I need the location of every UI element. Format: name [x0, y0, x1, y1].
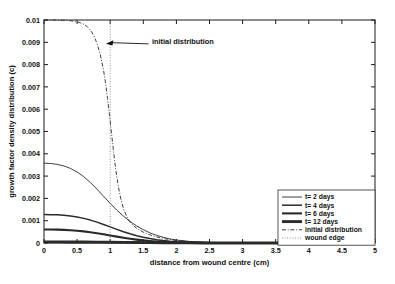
x-tick-label: 0 — [42, 246, 46, 255]
legend-box[interactable]: t= 2 dayst= 4 dayst= 6 dayst= 12 daysini… — [278, 190, 375, 245]
chart-canvas: 00.511.522.533.544.5500.0010.0020.0030.0… — [0, 0, 395, 284]
y-tick-label: 0.001 — [22, 216, 40, 225]
y-axis-title: growth factor density distribution (c) — [7, 65, 16, 198]
y-tick-label: 0.005 — [22, 127, 40, 136]
figure-container: 00.511.522.533.544.5500.0010.0020.0030.0… — [0, 0, 395, 284]
x-tick-label: 4 — [307, 246, 311, 255]
y-tick-label: 0.004 — [22, 149, 40, 158]
legend-label-t-4-days[interactable]: t= 4 days — [305, 202, 335, 210]
x-tick-label: 2 — [174, 246, 178, 255]
y-tick-label: 0.01 — [26, 16, 40, 25]
x-tick-label: 2.5 — [205, 246, 215, 255]
x-tick-label: 5 — [373, 246, 377, 255]
y-tick-label: 0.009 — [22, 38, 40, 47]
legend-label-t-6-days[interactable]: t= 6 days — [305, 210, 335, 218]
legend-label-t-2-days[interactable]: t= 2 days — [305, 193, 335, 201]
y-tick-label: 0.002 — [22, 194, 40, 203]
x-tick-label: 1.5 — [138, 246, 148, 255]
legend-label-initial-distribution[interactable]: initial distribution — [305, 226, 362, 233]
x-tick-label: 0.5 — [72, 246, 82, 255]
legend-label-t-12-days[interactable]: t= 12 days — [305, 218, 338, 226]
x-axis-title: distance from wound centre (cm) — [150, 258, 270, 267]
x-tick-label: 3.5 — [271, 246, 281, 255]
y-tick-label: 0.006 — [22, 105, 40, 114]
x-tick-label: 4.5 — [337, 246, 347, 255]
annotation-initial-distribution: initial distribution — [152, 37, 214, 46]
y-tick-label: 0 — [36, 239, 40, 248]
x-tick-label: 3 — [241, 246, 245, 255]
y-tick-label: 0.003 — [22, 172, 40, 181]
legend-label-wound-edge[interactable]: wound edge — [304, 234, 345, 242]
y-tick-label: 0.007 — [22, 83, 40, 92]
x-tick-label: 1 — [108, 246, 112, 255]
y-tick-label: 0.008 — [22, 60, 40, 69]
